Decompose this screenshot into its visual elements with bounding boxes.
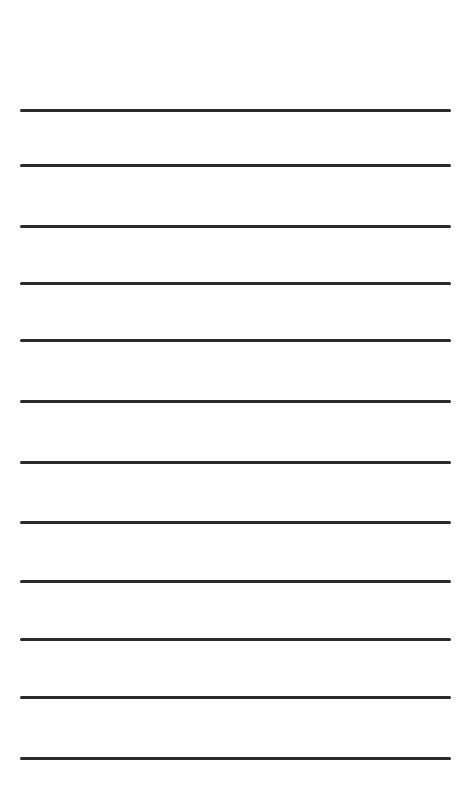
ruled-line (20, 109, 451, 112)
ruled-line (20, 400, 451, 403)
ruled-line (20, 521, 451, 524)
ruled-line (20, 461, 451, 464)
ruled-line (20, 225, 451, 228)
ruled-line (20, 580, 451, 583)
lined-paper-page (0, 0, 472, 798)
ruled-line (20, 757, 451, 760)
ruled-line (20, 696, 451, 699)
ruled-line (20, 282, 451, 285)
ruled-line (20, 638, 451, 641)
ruled-line (20, 164, 451, 167)
ruled-line (20, 339, 451, 342)
